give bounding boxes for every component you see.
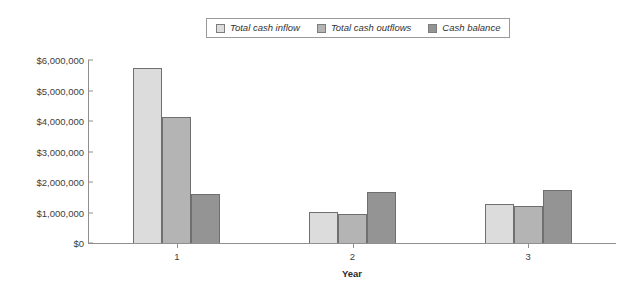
bar-groups: 123 [89, 60, 616, 243]
legend-swatch-total-cash-outflows [317, 24, 326, 33]
y-axis-tick: $5,000,000 [36, 85, 88, 96]
bar-total-cash-inflow-year-2 [309, 212, 338, 243]
x-axis-tick-mark [177, 243, 178, 248]
bar-group: 3 [440, 60, 616, 243]
legend-label-total-cash-outflows: Total cash outflows [331, 23, 411, 33]
plot-area: $0$1,000,000$2,000,000$3,000,000$4,000,0… [88, 60, 616, 243]
y-axis-tick-label: $3,000,000 [36, 146, 88, 157]
legend-label-total-cash-inflow: Total cash inflow [230, 23, 300, 33]
y-axis-tick: $1,000,000 [36, 207, 88, 218]
y-axis-tick-label: $1,000,000 [36, 207, 88, 218]
x-axis-tick-label: 1 [89, 251, 265, 262]
legend-entry-total-cash-inflow: Total cash inflow [216, 23, 300, 33]
y-axis-tick: $4,000,000 [36, 116, 88, 127]
x-axis-tick-mark [528, 243, 529, 248]
y-axis-tick-label: $0 [73, 238, 88, 249]
chart-legend: Total cash inflow Total cash outflows Ca… [206, 18, 510, 38]
bar-group-bars [440, 60, 616, 243]
legend-entry-cash-balance: Cash balance [428, 23, 500, 33]
x-axis-tick-label: 3 [440, 251, 616, 262]
bar-total-cash-outflows-year-2 [338, 214, 367, 243]
bar-cash-balance-year-1 [191, 194, 220, 243]
y-axis-tick-label: $6,000,000 [36, 55, 88, 66]
y-axis-tick: $6,000,000 [36, 55, 88, 66]
legend-swatch-total-cash-inflow [216, 24, 225, 33]
legend-swatch-cash-balance [428, 24, 437, 33]
legend-entry-total-cash-outflows: Total cash outflows [317, 23, 411, 33]
bar-total-cash-outflows-year-3 [514, 206, 543, 243]
bar-chart: Total cash inflow Total cash outflows Ca… [0, 0, 626, 289]
bar-total-cash-inflow-year-3 [485, 204, 514, 243]
bar-group: 1 [89, 60, 265, 243]
y-axis-tick-label: $2,000,000 [36, 177, 88, 188]
bar-group-bars [265, 60, 441, 243]
bar-total-cash-inflow-year-1 [133, 68, 162, 243]
bar-cash-balance-year-3 [543, 190, 572, 243]
bar-total-cash-outflows-year-1 [162, 117, 191, 243]
x-axis-title: Year [88, 268, 616, 279]
y-axis-tick: $0 [73, 238, 88, 249]
legend-label-cash-balance: Cash balance [442, 23, 500, 33]
y-axis-tick: $3,000,000 [36, 146, 88, 157]
y-axis-tick-label: $5,000,000 [36, 85, 88, 96]
y-axis-tick: $2,000,000 [36, 177, 88, 188]
bar-group-bars [89, 60, 265, 243]
x-axis-tick-label: 2 [265, 251, 441, 262]
bar-group: 2 [265, 60, 441, 243]
bar-cash-balance-year-2 [367, 192, 396, 243]
y-axis-tick-label: $4,000,000 [36, 116, 88, 127]
x-axis-tick-mark [353, 243, 354, 248]
